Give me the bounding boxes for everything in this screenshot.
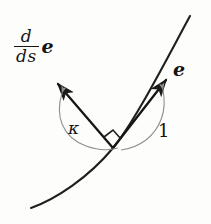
tangent-vector-label: e bbox=[172, 60, 185, 80]
derivative-vector-label: d ds e bbox=[14, 28, 54, 65]
derivative-vector-symbol: e bbox=[41, 37, 54, 56]
fraction-numerator: d bbox=[18, 28, 35, 46]
curvature-diagram: d ds e e κ 1 bbox=[0, 0, 211, 224]
unit-length-label: 1 bbox=[158, 120, 169, 141]
fraction-denominator: ds bbox=[14, 47, 39, 65]
tangent-vector-symbol: e bbox=[172, 58, 185, 80]
curvature-label: κ bbox=[68, 118, 79, 138]
curve-path bbox=[31, 16, 190, 208]
right-angle-marker bbox=[104, 130, 121, 139]
derivative-fraction: d ds bbox=[14, 28, 39, 65]
derivative-vector-arrow bbox=[58, 84, 113, 148]
